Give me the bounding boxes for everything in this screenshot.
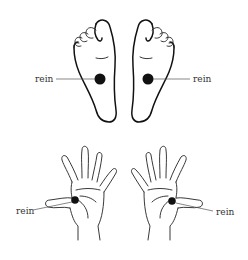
left-hand-illustration: [33, 146, 117, 240]
right-hand-illustration: [131, 146, 213, 240]
left-foot-reflex-point: [95, 74, 106, 85]
right-foot-illustration: [132, 20, 190, 122]
diagram-svg: rein rein: [0, 0, 248, 260]
reflexology-diagram: rein rein: [0, 0, 248, 260]
right-hand-reflex-point: [168, 197, 176, 205]
left-hand-reflex-point: [71, 196, 79, 204]
left-hand-label: rein: [16, 206, 35, 216]
right-foot-reflex-point: [143, 74, 154, 85]
left-foot-illustration: [56, 20, 116, 122]
left-hand-leader-line: [33, 202, 72, 210]
left-foot-label: rein: [35, 74, 54, 84]
right-hand-label: rein: [216, 207, 235, 217]
right-foot-label: rein: [193, 74, 212, 84]
